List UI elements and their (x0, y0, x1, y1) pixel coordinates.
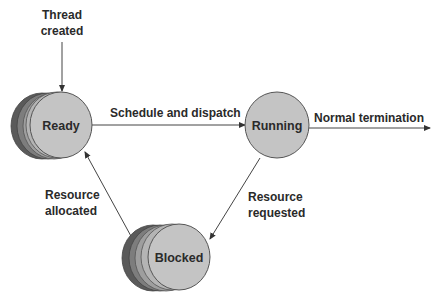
label-resource-requested-line2: requested (248, 206, 305, 220)
node-blocked: Blocked (122, 224, 210, 291)
edge-normal-termination: Normal termination (309, 111, 430, 128)
edge-thread-created: Thread created (41, 8, 84, 91)
label-resource-allocated-line1: Resource (45, 188, 100, 202)
node-label-running: Running (252, 119, 303, 133)
node-label-ready: Ready (42, 119, 80, 133)
label-normal-termination: Normal termination (314, 111, 424, 125)
label-thread-created-line2: created (41, 24, 84, 38)
edge-schedule-dispatch: Schedule and dispatch (92, 106, 245, 125)
label-schedule-dispatch: Schedule and dispatch (110, 106, 241, 120)
edge-resource-requested: Resource requested (210, 158, 305, 239)
node-running: Running (245, 92, 309, 158)
label-resource-requested-line1: Resource (248, 190, 303, 204)
label-thread-created-line1: Thread (42, 8, 82, 22)
label-resource-allocated-line2: allocated (45, 204, 97, 218)
thread-state-diagram: Thread created Schedule and dispatch Nor… (0, 0, 438, 298)
edge-resource-allocated: Resource allocated (45, 152, 132, 238)
node-ready: Ready (11, 92, 92, 159)
node-label-blocked: Blocked (155, 251, 204, 265)
